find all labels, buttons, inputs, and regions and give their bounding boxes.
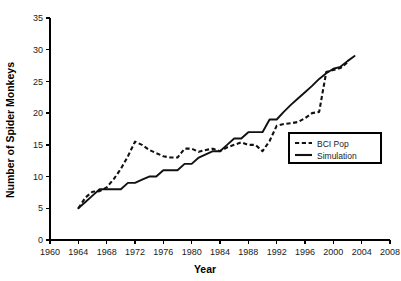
y-tick-label-15: 15 [33,140,43,150]
x-tick-label-1988: 1988 [238,247,258,257]
x-tick-label-2004: 2004 [352,247,372,257]
y-tick-label-10: 10 [33,172,43,182]
x-tick-label-1972: 1972 [125,247,145,257]
x-tick-label-1984: 1984 [210,247,230,257]
y-tick-label-35: 35 [33,13,43,23]
y-tick-label-0: 0 [38,235,43,245]
y-tick-label-5: 5 [38,203,43,213]
y-tick-label-25: 25 [33,77,43,87]
y-tick-label-30: 30 [33,45,43,55]
x-tick-label-1964: 1964 [68,247,88,257]
chart-container: 05101520253035 1960196419681972197619801… [0,0,401,281]
x-tick-label-1980: 1980 [182,247,202,257]
legend-label-bci-pop: BCI Pop [317,139,349,149]
x-tick-label-2000: 2000 [323,247,343,257]
legend-label-simulation: Simulation [317,151,357,161]
spider-monkey-population-line-chart: 05101520253035 1960196419681972197619801… [0,0,401,281]
x-axis-title: Year [194,263,216,275]
x-tick-label-1976: 1976 [153,247,173,257]
x-tick-label-1996: 1996 [295,247,315,257]
y-tick-label-20: 20 [33,108,43,118]
x-tick-label-1960: 1960 [40,247,60,257]
x-tick-label-1992: 1992 [267,247,287,257]
chart-legend: BCI Pop Simulation [289,133,381,163]
y-axis-title: Number of Spider Monkeys [4,62,16,198]
x-tick-label-2008: 2008 [380,247,400,257]
x-tick-label-1968: 1968 [97,247,117,257]
